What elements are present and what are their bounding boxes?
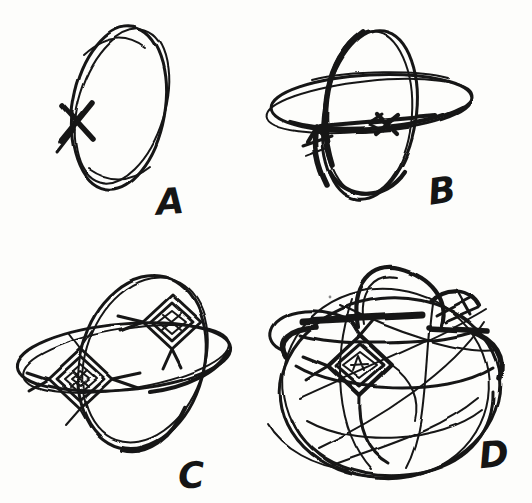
ellipse-outline — [58, 18, 186, 197]
vertical-ellipse — [311, 24, 428, 206]
panel-b-label: B — [425, 168, 458, 212]
panel-a-sketch — [57, 18, 186, 197]
panel-a-label: A — [152, 180, 186, 223]
horizontal-ellipse — [264, 70, 474, 142]
panel-d-sketch — [268, 268, 509, 492]
ink-speck — [329, 296, 332, 299]
ball-outline — [268, 276, 509, 493]
panel-c-label: C — [177, 454, 206, 496]
panel-d-label: D — [477, 432, 511, 476]
wide-ellipse — [15, 313, 234, 405]
panel-c-sketch — [15, 260, 234, 463]
sketch-figure: A B — [0, 0, 532, 503]
sketch-canvas: A B — [0, 0, 532, 503]
winding-diamond-upper — [118, 295, 201, 369]
